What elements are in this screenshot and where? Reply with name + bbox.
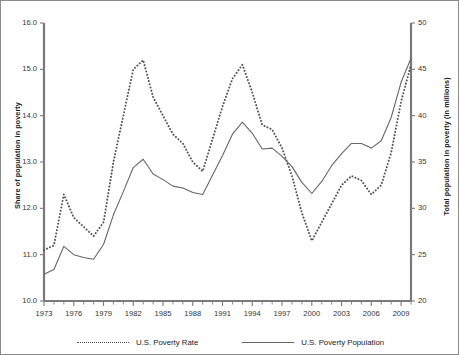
legend-item-poverty-rate: U.S. Poverty Rate — [77, 338, 198, 347]
legend-swatch-dotted-icon — [77, 339, 129, 346]
legend-label-poverty-rate: U.S. Poverty Rate — [136, 338, 198, 347]
legend-label-poverty-population: U.S. Poverty Population — [301, 338, 384, 347]
legend-item-poverty-population: U.S. Poverty Population — [242, 338, 384, 347]
series-line-1 — [44, 60, 411, 250]
plot-area — [1, 1, 459, 355]
poverty-chart: Share of population in poverty Total pop… — [0, 0, 459, 355]
legend-swatch-solid-icon — [242, 339, 294, 346]
chart-legend: U.S. Poverty Rate U.S. Poverty Populatio… — [1, 331, 459, 353]
